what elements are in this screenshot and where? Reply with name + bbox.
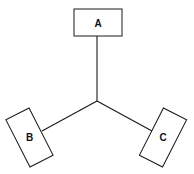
node-c[interactable]: C (139, 108, 186, 167)
node-a[interactable]: A (74, 9, 122, 36)
node-b[interactable]: B (6, 108, 53, 167)
diagram-canvas: A B C (0, 0, 194, 174)
node-b-label: B (26, 132, 33, 143)
node-c-label: C (159, 132, 166, 143)
edge-hub-to-b (42, 101, 97, 131)
diagram-svg: A B C (0, 0, 194, 174)
edge-hub-to-c (97, 101, 152, 131)
node-a-label: A (94, 18, 101, 29)
